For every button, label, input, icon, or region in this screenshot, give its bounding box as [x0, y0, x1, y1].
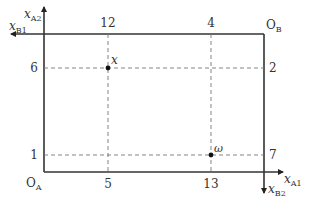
tick-right-7: 7 — [269, 148, 277, 162]
axis-xB1-label: xB1 — [9, 19, 27, 35]
tick-top-4: 4 — [207, 16, 215, 30]
origin-B-label: OB — [266, 18, 282, 34]
point-omega-marker — [209, 153, 214, 158]
point-x-marker — [106, 66, 111, 71]
origin-A-label: OA — [26, 176, 42, 192]
tick-bottom-5: 5 — [104, 177, 112, 191]
axis-xA1-label: xA1 — [284, 172, 302, 188]
tick-bottom-13: 13 — [203, 177, 218, 191]
tick-top-12: 12 — [100, 16, 115, 30]
point-omega-label: ω — [214, 142, 223, 155]
point-x-label: x — [111, 53, 118, 67]
guide-lines — [44, 34, 264, 172]
tick-left-1: 1 — [30, 148, 38, 162]
axis-xA2-label: xA2 — [24, 7, 42, 23]
edgeworth-box-diagram: x ω 12 4 5 13 6 1 2 7 OA OB xA2 xB1 xA1 … — [0, 0, 310, 201]
tick-left-6: 6 — [30, 61, 38, 75]
tick-right-2: 2 — [269, 61, 277, 75]
